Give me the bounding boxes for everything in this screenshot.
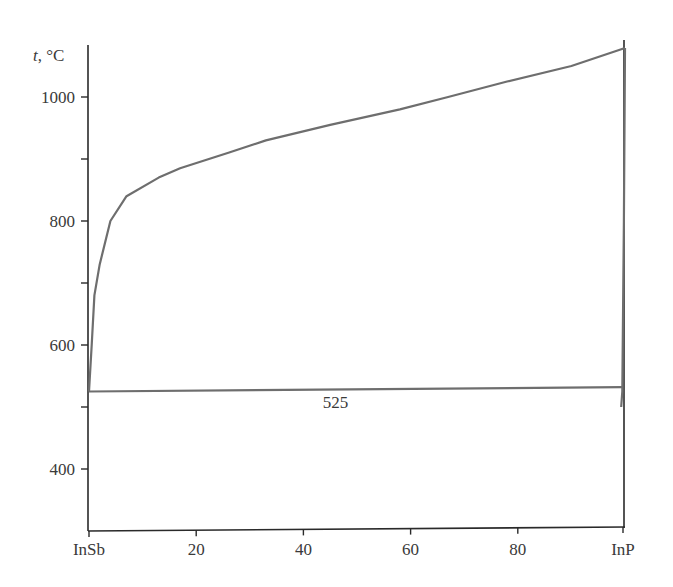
eutectic-line [89,387,622,391]
y-tick-label: 400 [50,460,76,479]
annotations: 525 [323,393,349,412]
y-axis-title: t, °C [33,46,64,65]
liquidus-line [89,48,625,392]
x-tick-label: InP [611,540,635,559]
x-tick-label: 60 [402,540,419,559]
y-tick-label: 1000 [41,88,75,107]
y-tick-label: 800 [50,212,76,231]
axes [88,40,625,531]
x-tick-label: 80 [509,540,526,559]
x-ticks: InSb20406080InP [73,527,635,559]
eutectic-temperature-label: 525 [323,393,349,412]
phase-diagram-chart: 4006008001000 InSb20406080InP t, °C 525 [0,0,673,587]
x-tick-label: 20 [188,540,205,559]
y-tick-label: 600 [50,336,76,355]
x-tick-label: 40 [295,540,312,559]
x-axis [88,527,625,531]
y-ticks: 4006008001000 [41,88,88,479]
x-tick-label: InSb [73,540,105,559]
series [89,48,625,407]
